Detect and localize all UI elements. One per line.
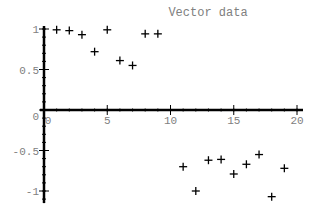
y-tick-label: 1 [32,24,39,36]
x-tick-label: 20 [290,115,303,127]
plus-marker-icon [65,27,73,35]
plus-marker-icon [217,155,225,163]
plus-marker-icon [141,30,149,38]
scatter-chart: Vector data 0510152010.50-0.5-1 [0,0,323,220]
y-tick-label: 0.5 [19,65,39,77]
plus-marker-icon [242,160,250,168]
plus-marker-icon [116,57,124,65]
plus-marker-icon [78,31,86,39]
plus-marker-icon [204,156,212,164]
plus-marker-icon [129,61,137,69]
y-tick-label: -1 [26,186,40,198]
x-tick-label: 5 [104,115,111,127]
plus-marker-icon [268,193,276,201]
plus-marker-icon [91,48,99,56]
plus-marker-icon [103,26,111,34]
y-tick-label: -0.5 [13,146,39,158]
x-tick-label: 0 [45,115,52,127]
plus-marker-icon [255,151,263,159]
plus-marker-icon [192,187,200,195]
axes: 0510152010.50-0.5-1 [13,24,304,203]
chart-title: Vector data [168,6,247,20]
plus-marker-icon [154,30,162,38]
x-tick-label: 10 [164,115,177,127]
plus-marker-icon [230,170,238,178]
plus-marker-icon [53,26,61,34]
x-tick-label: 15 [227,115,240,127]
y-tick-label: 0 [32,111,39,123]
plus-marker-icon [280,164,288,172]
plus-marker-icon [179,163,187,171]
